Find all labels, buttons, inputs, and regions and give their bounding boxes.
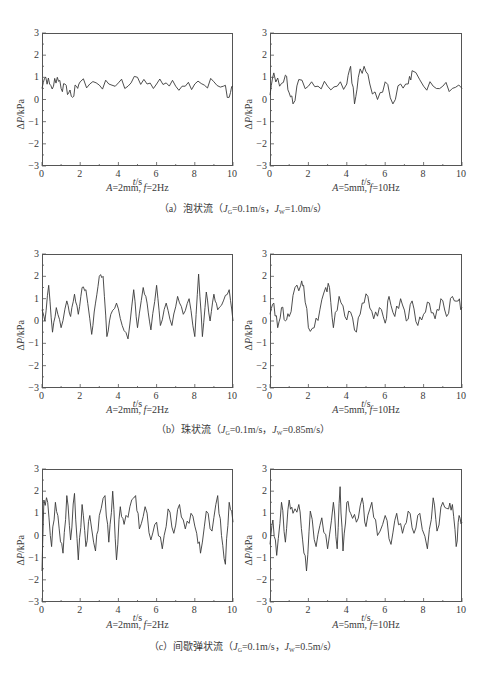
y-tick-label: −2 (256, 139, 267, 149)
y-tick-label: −3 (28, 383, 39, 393)
plot-area (42, 254, 233, 388)
plot-panel-b-2: 3210−1−2−30246810ΔP/kPat/s (270, 254, 462, 388)
y-tick-label: −1 (28, 117, 39, 127)
y-tick-label: 3 (34, 249, 39, 259)
plot-frame (271, 255, 462, 388)
panel-parameters: A=5mm, f=10Hz (270, 619, 462, 630)
y-tick-label: −2 (28, 139, 39, 149)
y-tick-label: 0 (262, 531, 267, 541)
y-axis-label: ΔP/kPa (15, 291, 26, 351)
y-tick-label: 2 (262, 271, 267, 281)
panel-parameters: A=2mm, f=2Hz (42, 619, 233, 630)
plot-frame (271, 470, 462, 602)
y-axis-label: ΔP/kPa (243, 505, 254, 565)
y-tick-label: 1 (34, 72, 39, 82)
y-tick-label: −1 (256, 117, 267, 127)
pressure-signal-line (42, 274, 233, 339)
y-tick-label: −2 (256, 361, 267, 371)
plot-area (270, 469, 462, 602)
y-tick-label: 1 (262, 294, 267, 304)
panel-parameters: A=2mm, f=2Hz (42, 404, 233, 415)
y-tick-label: −3 (256, 161, 267, 171)
pressure-signal-line (270, 281, 462, 332)
plot-area (270, 254, 462, 388)
pressure-signal-line (42, 76, 233, 97)
y-tick-label: −1 (28, 338, 39, 348)
subfigure-caption-a: （a）泡状流（JG=0.1m/s，JW=1.0m/s） (0, 200, 486, 215)
y-tick-label: −1 (256, 553, 267, 563)
pressure-signal-line (270, 66, 462, 104)
panel-parameters: A=5mm, f=10Hz (270, 182, 462, 193)
y-tick-label: −3 (256, 597, 267, 607)
y-axis-label: ΔP/kPa (243, 291, 254, 351)
y-tick-label: 0 (262, 316, 267, 326)
y-axis-label: ΔP/kPa (15, 505, 26, 565)
plot-frame (43, 34, 233, 166)
y-tick-label: 3 (262, 28, 267, 38)
y-tick-label: −1 (256, 338, 267, 348)
y-tick-label: 2 (34, 50, 39, 60)
y-tick-label: −2 (28, 575, 39, 585)
y-tick-label: −3 (28, 597, 39, 607)
y-tick-label: 1 (34, 294, 39, 304)
plot-area (270, 33, 462, 166)
y-tick-label: −3 (28, 161, 39, 171)
y-axis-label: ΔP/kPa (15, 69, 26, 129)
plot-panel-a-2: 3210−1−2−30246810ΔP/kPat/s (270, 33, 462, 166)
plot-area (42, 33, 233, 166)
subfigure-caption-b: （b）珠状流（JG=0.1m/s，JW=0.85m/s） (0, 421, 486, 436)
y-tick-label: 2 (262, 50, 267, 60)
plot-panel-c-1: 3210−1−2−30246810ΔP/kPat/s (42, 469, 233, 602)
y-tick-label: −3 (256, 383, 267, 393)
panel-parameters: A=2mm, f=2Hz (42, 182, 233, 193)
y-tick-label: 2 (34, 486, 39, 496)
y-tick-label: 2 (34, 271, 39, 281)
y-tick-label: 3 (262, 464, 267, 474)
y-tick-label: 0 (262, 95, 267, 105)
plot-panel-b-1: 3210−1−2−30246810ΔP/kPat/s (42, 254, 233, 388)
plot-panel-a-1: 3210−1−2−30246810ΔP/kPat/s (42, 33, 233, 166)
y-tick-label: 3 (34, 28, 39, 38)
y-tick-label: 3 (34, 464, 39, 474)
y-tick-label: 2 (262, 486, 267, 496)
panel-parameters: A=5mm, f=10Hz (270, 404, 462, 415)
y-tick-label: 0 (34, 95, 39, 105)
y-tick-label: −1 (28, 553, 39, 563)
y-axis-label: ΔP/kPa (243, 69, 254, 129)
y-tick-label: −2 (256, 575, 267, 585)
y-tick-label: 1 (262, 72, 267, 82)
plot-area (42, 469, 233, 602)
pressure-signal-line (42, 491, 233, 571)
y-tick-label: 1 (34, 508, 39, 518)
plot-panel-c-2: 3210−1−2−30246810ΔP/kPat/s (270, 469, 462, 602)
y-tick-label: 0 (34, 316, 39, 326)
pressure-signal-line (270, 487, 462, 571)
y-tick-label: 3 (262, 249, 267, 259)
y-tick-label: 0 (34, 531, 39, 541)
y-tick-label: 1 (262, 508, 267, 518)
subfigure-caption-c: （c）间歇弹状流（JG=0.1m/s，JW=0.5m/s） (0, 638, 486, 653)
y-tick-label: −2 (28, 361, 39, 371)
plot-frame (271, 34, 462, 166)
